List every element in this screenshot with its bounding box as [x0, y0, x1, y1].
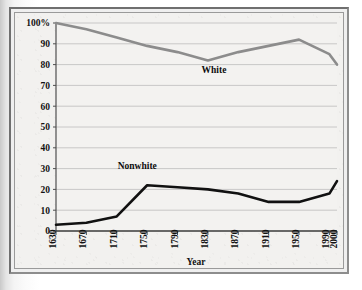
- figure-inner-frame: 0102030405060708090100% 1630167017101750…: [14, 12, 344, 269]
- x-tick-label: 1750: [139, 229, 149, 248]
- x-axis-title: Year: [187, 257, 207, 267]
- y-tick-label: 60: [41, 102, 51, 112]
- y-axis-tick-labels: 0102030405060708090100%: [26, 18, 50, 236]
- x-tick-label: 1670: [78, 229, 88, 248]
- y-tick-label: 80: [41, 60, 51, 70]
- y-tick-label: 100%: [26, 18, 50, 28]
- x-tick-label: 1790: [170, 229, 180, 248]
- y-tick-label: 30: [41, 164, 51, 174]
- line-chart: 0102030405060708090100% 1630167017101750…: [15, 13, 349, 274]
- x-tick-label: 1910: [261, 229, 271, 248]
- y-tick-label: 90: [41, 39, 51, 49]
- x-tick-label: 1870: [230, 229, 240, 248]
- figure-page: 0102030405060708090100% 1630167017101750…: [0, 0, 362, 290]
- x-tick-label: 1950: [291, 229, 301, 248]
- x-tick-label: 1830: [200, 229, 210, 248]
- x-tick-label: 1710: [109, 229, 119, 248]
- x-tick-label: 1630: [48, 229, 58, 248]
- y-tick-label: 50: [41, 122, 51, 132]
- figure-outer-frame: 0102030405060708090100% 1630167017101750…: [9, 7, 349, 274]
- x-axis-tick-labels: 1630167017101750179018301870191019501990…: [48, 229, 339, 248]
- x-tick-label: 2000: [329, 229, 339, 248]
- y-tick-label: 70: [41, 81, 51, 91]
- y-tick-label: 40: [41, 143, 51, 153]
- y-tick-label: 20: [41, 185, 51, 195]
- y-tick-label: 10: [41, 206, 51, 216]
- series-label-white: White: [202, 65, 227, 75]
- series-label-nonwhite: Nonwhite: [118, 161, 157, 171]
